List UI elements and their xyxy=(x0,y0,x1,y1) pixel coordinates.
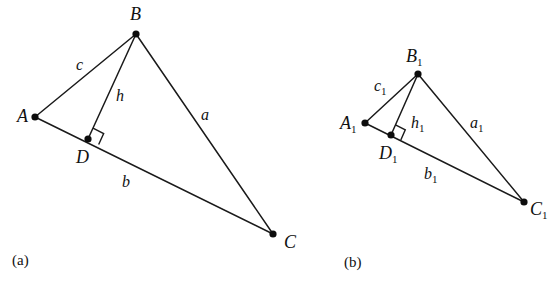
vertex-label-C: C xyxy=(284,232,297,252)
caption-panel-b: (b) xyxy=(344,254,362,271)
segment-altitude-h xyxy=(88,34,136,139)
triangle-diagram-canvas: cabhABCD(a) c1a1b1h1A1B1C1D1(b) xyxy=(0,0,560,287)
vertex-point-A1 xyxy=(361,119,368,126)
vertex-point-C1 xyxy=(520,198,527,205)
segment-side-c xyxy=(35,34,136,117)
vertex-point-A xyxy=(31,113,38,120)
label-side-a: a xyxy=(201,106,209,123)
figure-root: cabhABCD(a) c1a1b1h1A1B1C1D1(b) xyxy=(0,0,560,287)
vertex-label-C1: C1 xyxy=(530,199,548,221)
label-side-b1: b1 xyxy=(424,165,438,185)
vertex-label-A: A xyxy=(16,106,29,126)
vertex-label-B1: B1 xyxy=(406,46,423,68)
segment-side-a xyxy=(136,34,273,234)
label-side-a1: a1 xyxy=(470,114,484,134)
vertex-point-D xyxy=(84,135,91,142)
vertex-label-D1: D1 xyxy=(378,143,398,165)
right-angle-mark xyxy=(395,125,405,140)
caption-panel-a: (a) xyxy=(12,252,29,269)
panel-a: cabhABCD(a) xyxy=(12,4,297,269)
vertex-point-B xyxy=(132,30,139,37)
vertex-label-B: B xyxy=(130,4,141,24)
right-angle-mark xyxy=(93,128,104,144)
label-altitude-h: h xyxy=(116,87,124,104)
segment-side-b xyxy=(35,117,273,234)
vertex-label-D: D xyxy=(75,147,89,167)
vertex-point-C xyxy=(269,230,276,237)
label-altitude-h1: h1 xyxy=(411,114,425,134)
vertex-label-A1: A1 xyxy=(339,113,357,135)
label-side-c1: c1 xyxy=(374,77,387,97)
label-side-c: c xyxy=(76,56,83,73)
label-side-b: b xyxy=(122,173,130,190)
vertex-point-D1 xyxy=(387,131,394,138)
vertex-point-B1 xyxy=(414,70,421,77)
panel-b: c1a1b1h1A1B1C1D1(b) xyxy=(339,46,548,271)
